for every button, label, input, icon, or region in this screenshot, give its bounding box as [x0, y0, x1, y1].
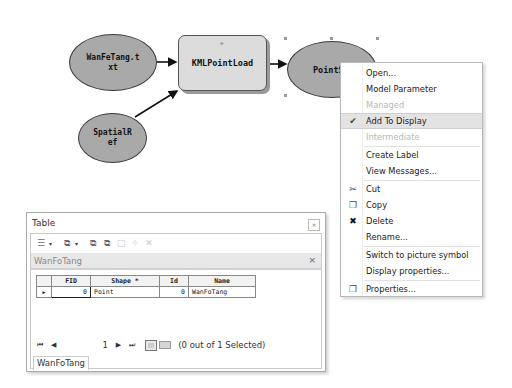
select-by-attributes-icon[interactable]: ⧉	[87, 238, 99, 249]
menu-item-label: Model Parameter	[366, 84, 437, 94]
spatial-ref-node[interactable]: SpatialR ef	[78, 113, 147, 163]
tool-label: KMLPointLoad	[192, 58, 253, 68]
column-header-shape[interactable]: Shape *	[91, 276, 160, 287]
spatial-ref-label-2: ef	[93, 138, 132, 148]
menu-item-label: View Messages...	[366, 166, 437, 176]
menu-item-view-messages[interactable]: View Messages...	[341, 163, 482, 179]
row-marker-icon[interactable]: ▶	[37, 287, 52, 298]
menu-item-display-properties[interactable]: Display properties...	[341, 263, 482, 279]
properties-icon: ❐	[347, 284, 359, 294]
cell-name[interactable]: WanFoTang	[189, 287, 256, 298]
table-window: Table ⨯ ☰ ▾ ⧉ ▾ ⧉ ⧉ □ ✧ ✕ WanFoTang × FI…	[26, 212, 326, 372]
chevron-down-icon[interactable]: ▾	[49, 240, 55, 247]
menu-item-label: Open...	[366, 68, 396, 78]
menu-item-copy[interactable]: ❐ Copy	[341, 197, 482, 213]
delete-selected-icon[interactable]: ✕	[143, 238, 155, 248]
selection-handle[interactable]	[376, 37, 379, 40]
first-record-icon[interactable]: ⏮	[37, 341, 43, 349]
clear-selection-icon[interactable]: □	[115, 238, 127, 248]
menu-item-cut[interactable]: ✂ Cut	[341, 181, 482, 197]
chevron-down-icon[interactable]: ▾	[75, 240, 81, 247]
menu-item-model-parameter[interactable]: Model Parameter	[341, 81, 482, 97]
close-tab-icon[interactable]: ×	[308, 255, 316, 265]
table-options-icon[interactable]: ☰	[35, 238, 47, 248]
zoom-to-selected-icon[interactable]: ✧	[129, 238, 141, 248]
selection-handle[interactable]	[284, 37, 287, 40]
menu-item-label: Intermediate	[366, 132, 420, 142]
menu-item-rename[interactable]: Rename...	[341, 229, 482, 245]
connector-spatialref-to-tool	[135, 91, 177, 117]
selection-handle[interactable]	[284, 94, 287, 97]
show-selected-records-button[interactable]	[159, 341, 171, 349]
menu-item-label: Display properties...	[366, 266, 449, 276]
show-all-records-button[interactable]	[145, 340, 157, 351]
menu-item-label: Copy	[366, 200, 387, 210]
menu-item-label: Cut	[366, 184, 380, 194]
menu-item-label: Switch to picture symbol	[366, 250, 469, 260]
table-toolbar: ☰ ▾ ⧉ ▾ ⧉ ⧉ □ ✧ ✕	[31, 234, 321, 252]
attribute-table: FID Shape * Id Name ▶ 0 Point 0 WanFoTan…	[36, 275, 256, 298]
column-header-id[interactable]: Id	[160, 276, 189, 287]
menu-item-label: Create Label	[366, 150, 419, 160]
row-selector-header	[37, 276, 52, 287]
menu-item-label: Add To Display	[366, 116, 427, 126]
table-panel: ☰ ▾ ⧉ ▾ ⧉ ⧉ □ ✧ ✕ WanFoTang × FID Shape …	[30, 233, 322, 369]
menu-item-add-to-display[interactable]: ✔ Add To Display	[341, 113, 482, 129]
table-window-title: Table	[32, 218, 55, 228]
scissors-icon: ✂	[347, 184, 359, 194]
table-bottom-tab[interactable]: WanFoTang	[33, 356, 89, 370]
close-window-button[interactable]: ⨯	[308, 219, 320, 231]
copy-icon: ❐	[347, 200, 359, 210]
tool-script-icon: ✦	[219, 38, 224, 48]
column-header-name[interactable]: Name	[189, 276, 256, 287]
menu-item-delete[interactable]: ✖ Delete	[341, 213, 482, 229]
menu-item-managed: Managed	[341, 97, 482, 113]
next-record-icon[interactable]: ▶	[116, 341, 121, 349]
switch-selection-icon[interactable]: ⧉	[101, 238, 113, 249]
related-tables-icon[interactable]: ⧉	[61, 238, 73, 249]
cell-fid[interactable]: 0	[52, 287, 91, 298]
menu-item-label: Rename...	[366, 232, 408, 242]
spatial-ref-label-1: SpatialR	[93, 128, 132, 138]
menu-item-switch-to-picture-symbol[interactable]: Switch to picture symbol	[341, 247, 482, 263]
menu-item-open[interactable]: Open...	[341, 65, 482, 81]
input-data-node[interactable]: WanFeTang.t xt	[69, 34, 157, 91]
cell-id[interactable]: 0	[160, 287, 189, 298]
table-tab-header: WanFoTang ×	[31, 253, 321, 270]
menu-item-label: Delete	[366, 216, 393, 226]
selection-count-text: (0 out of 1 Selected)	[178, 340, 265, 350]
checkmark-icon: ✔	[347, 116, 359, 126]
menu-item-label: Managed	[366, 100, 404, 110]
cell-shape[interactable]: Point	[91, 287, 160, 298]
menu-item-create-label[interactable]: Create Label	[341, 147, 482, 163]
current-record-number[interactable]: 1	[102, 340, 107, 350]
delete-x-icon: ✖	[347, 216, 359, 226]
previous-record-icon[interactable]: ◀	[51, 341, 56, 349]
input-data-label-1: WanFeTang.t	[87, 53, 140, 63]
menu-item-properties[interactable]: ❐ Properties...	[341, 281, 482, 297]
table-tab-name: WanFoTang	[34, 256, 82, 266]
input-data-label-2: xt	[87, 63, 140, 73]
record-navigation: ⏮ ◀ 1 ▶ ⏭ (0 out of 1 Selected)	[37, 338, 317, 352]
kml-point-load-tool-node[interactable]: ✦ KMLPointLoad	[178, 35, 267, 91]
selection-handle[interactable]	[330, 37, 333, 40]
column-header-fid[interactable]: FID	[52, 276, 91, 287]
menu-item-label: Properties...	[366, 284, 416, 294]
table-header-row: FID Shape * Id Name	[37, 276, 256, 287]
last-record-icon[interactable]: ⏭	[129, 341, 135, 349]
table-row[interactable]: ▶ 0 Point 0 WanFoTang	[37, 287, 256, 298]
menu-item-intermediate: Intermediate	[341, 129, 482, 145]
context-menu: Open... Model Parameter Managed ✔ Add To…	[340, 62, 483, 297]
